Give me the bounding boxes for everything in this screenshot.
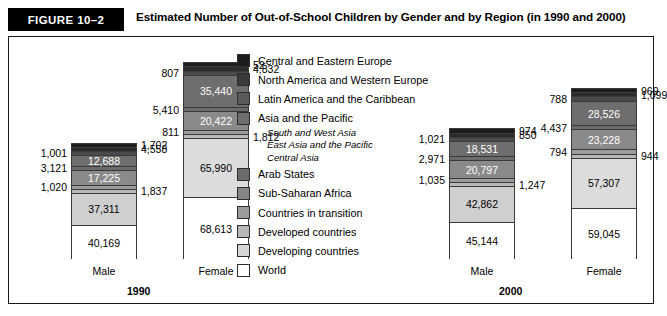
legend-item-label: Asia and the Pacific [258,112,353,124]
legend-item-5: Sub-Saharan Africa [237,184,443,203]
bar-segment[interactable]: 45,144 [450,223,514,260]
legend-item-6: Countries in transition [237,203,443,222]
stacked-bar[interactable]: 12,68817,22537,31140,169 [71,143,137,259]
segment-callout-label: 4,437 [541,123,567,134]
legend-item-8: Developing countries [237,241,443,260]
group-year-label: 1990 [127,285,150,297]
segment-callout-label: 807 [161,68,179,79]
bar-segment[interactable]: 17,225 [72,171,136,186]
segment-value-label: 17,225 [72,172,136,183]
segment-value-label: 20,797 [450,164,514,175]
bar-segment[interactable]: 37,311 [72,194,136,226]
legend-subitem-2: Central Asia [267,152,443,165]
legend-item-label: North America and Western Europe [258,74,428,86]
figure-title: Estimated Number of Out-of-School Childr… [136,10,626,23]
segment-callout-label: 3,121 [41,163,67,174]
legend-swatch-icon [237,168,250,181]
figure-header: FIGURE 10–2 Estimated Number of Out-of-S… [8,8,656,32]
segment-value-label: 45,144 [450,236,514,247]
bar-group-1990-male: 1,7024,5581,0013,1211,0201,83712,68817,2… [71,37,137,303]
segment-callout-label: 4,558 [141,144,167,155]
segment-value-label: 23,228 [572,135,636,146]
legend-item-3: Asia and the Pacific [237,109,443,128]
segment-callout-label: 1,247 [519,180,545,191]
legend-swatch-icon [237,73,250,86]
segment-callout-label: 1,001 [41,148,67,159]
bar-segment[interactable]: 59,045 [572,209,636,260]
segment-callout-label: 1,099 [641,90,667,101]
bar-category-label: Male [71,265,137,277]
segment-callout-label: 944 [641,151,659,162]
legend-swatch-icon [237,92,250,105]
segment-value-label: 18,531 [450,144,514,155]
segment-callout-label: 811 [162,127,179,138]
legend-swatch-icon [237,54,250,67]
segment-value-label: 37,311 [72,204,136,215]
chart-legend: Central and Eastern EuropeNorth America … [237,51,443,280]
legend-subitems: South and West AsiaEast Asia and the Pac… [237,127,443,165]
legend-item-0: Central and Eastern Europe [237,51,443,70]
segment-callout-label: 850 [519,130,537,141]
segment-value-label: 59,045 [572,229,636,240]
legend-item-4: Arab States [237,165,443,184]
segment-callout-label: 5,410 [153,105,179,116]
legend-swatch-icon [237,264,250,277]
segment-callout-label: 1,020 [41,182,67,193]
segment-value-label: 12,688 [72,156,136,167]
legend-item-label: Sub-Saharan Africa [258,187,352,199]
bar-segment[interactable]: 12,688 [72,156,136,167]
bar-category-label: Male [449,265,515,277]
stacked-bar[interactable]: 18,53120,79742,86245,144 [449,128,515,259]
segment-value-label: 42,862 [450,199,514,210]
legend-subitem-0: South and West Asia [267,127,443,140]
bar-segment[interactable]: 28,526 [572,102,636,127]
bar-segment[interactable]: 57,307 [572,159,636,209]
bar-segment[interactable]: 20,797 [450,161,514,178]
stacked-bar[interactable]: 28,52623,22857,30759,045 [571,88,637,259]
legend-item-label: Latin America and the Caribbean [258,93,415,105]
bar-segment[interactable]: 40,169 [72,226,136,260]
legend-swatch-icon [237,112,250,125]
segment-callout-label: 794 [549,147,567,158]
segment-value-label: 57,307 [572,178,636,189]
legend-item-7: Developed countries [237,222,443,241]
legend-item-label: Arab States [258,168,314,180]
legend-item-label: Countries in transition [258,207,362,219]
bar-segment[interactable]: 42,862 [450,187,514,223]
legend-item-2: Latin America and the Caribbean [237,89,443,108]
figure-number-tag: FIGURE 10–2 [8,8,124,31]
legend-item-1: North America and Western Europe [237,70,443,89]
chart-plot-frame: 1,7024,5581,0013,1211,0201,83712,68817,2… [8,36,654,304]
bar-segment[interactable]: 23,228 [572,130,636,150]
legend-item-9: World [237,260,443,279]
legend-item-label: World [258,264,286,276]
bar-group-2000-male: 9748501,0212,9711,0351,24718,53120,79742… [449,37,515,303]
bar-group-2000-female: 9691,0997884,43779494428,52623,22857,307… [571,37,637,303]
legend-item-label: Developing countries [258,245,359,257]
segment-callout-label: 788 [549,94,567,105]
segment-value-label: 40,169 [72,238,136,249]
bar-category-label: Female [571,265,637,277]
legend-swatch-icon [237,187,250,200]
legend-swatch-icon [237,206,250,219]
bar-segment[interactable]: 18,531 [450,142,514,157]
legend-item-label: Developed countries [258,226,356,238]
legend-item-label: Central and Eastern Europe [258,55,392,67]
segment-callout-label: 1,837 [141,186,167,197]
legend-swatch-icon [237,244,250,257]
segment-value-label: 28,526 [572,108,636,119]
group-year-label: 2000 [499,285,522,297]
legend-swatch-icon [237,225,250,238]
legend-subitem-1: East Asia and the Pacific [267,139,443,152]
